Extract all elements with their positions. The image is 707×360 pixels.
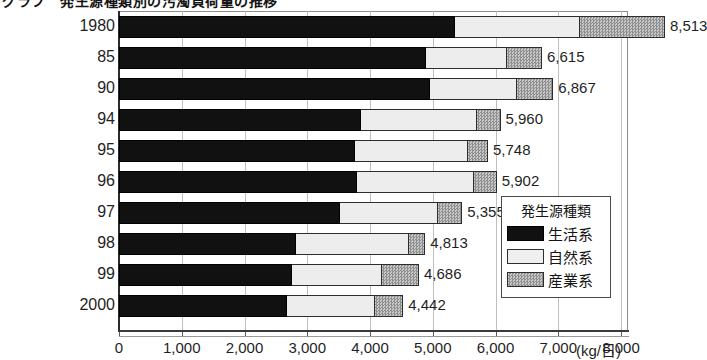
bar-row: 19808,513: [119, 16, 628, 38]
stacked-bar-2000[interactable]: [119, 295, 403, 317]
x-tick-label-5000: 5,000: [414, 339, 452, 356]
chart-title-strip: グラフ 発生源種類別の汚濁負荷量の推移: [0, 0, 648, 9]
bar-segment-sangyo: [375, 295, 403, 317]
bar-segment-sangyo: [409, 233, 425, 255]
legend-item-seikatsu: 生活系: [507, 223, 605, 244]
bar-segment-seikatsu: [119, 171, 357, 193]
bar-segment-shizen: [430, 78, 517, 100]
stacked-bar-85[interactable]: [119, 47, 542, 69]
y-axis-label-97: 97: [0, 203, 115, 221]
bar-segment-shizen: [340, 202, 438, 224]
y-axis-label-98: 98: [0, 234, 115, 252]
x-tick-label-4000: 4,000: [351, 339, 389, 356]
bar-segment-seikatsu: [119, 202, 340, 224]
legend-label-seikatsu: 生活系: [548, 223, 593, 244]
y-axis-label-85: 85: [0, 48, 115, 66]
legend-item-sangyo: 産業系: [507, 269, 605, 290]
bar-value-label: 4,813: [430, 234, 468, 251]
bar-row: 856,615: [119, 47, 628, 69]
bar-segment-shizen: [357, 171, 474, 193]
x-tick-label-6000: 6,000: [477, 339, 515, 356]
stacked-bar-96[interactable]: [119, 171, 497, 193]
bar-segment-shizen: [361, 109, 477, 131]
bar-segment-shizen: [292, 264, 382, 286]
bar-segment-seikatsu: [119, 47, 426, 69]
bar-segment-shizen: [426, 47, 506, 69]
stacked-bar-94[interactable]: [119, 109, 501, 131]
bar-value-label: 6,867: [558, 79, 596, 96]
plot-border-top: [119, 11, 628, 12]
bar-segment-seikatsu: [119, 78, 430, 100]
bar-segment-seikatsu: [119, 109, 361, 131]
stacked-bar-99[interactable]: [119, 264, 419, 286]
x-axis-line: [119, 330, 629, 332]
bar-value-label: 5,748: [493, 141, 531, 158]
bar-segment-shizen: [455, 16, 581, 38]
bar-value-label: 5,960: [506, 110, 544, 127]
bar-row: 965,902: [119, 171, 628, 193]
bar-segment-sangyo: [474, 171, 497, 193]
bar-segment-sangyo: [507, 47, 542, 69]
bar-value-label: 5,902: [502, 172, 540, 189]
x-tick-label-7000: 7,000: [539, 339, 577, 356]
legend-swatch-gray-icon: [507, 272, 544, 287]
x-tick-label-1000: 1,000: [163, 339, 201, 356]
y-axis-label-90: 90: [0, 79, 115, 97]
legend-label-shizen: 自然系: [548, 246, 593, 267]
y-axis-label-96: 96: [0, 172, 115, 190]
bar-value-label: 8,513: [670, 17, 707, 34]
bar-segment-seikatsu: [119, 16, 455, 38]
legend-label-sangyo: 産業系: [548, 269, 593, 290]
bar-segment-seikatsu: [119, 295, 287, 317]
y-axis-label-95: 95: [0, 141, 115, 159]
bar-row: 945,960: [119, 109, 628, 131]
legend-swatch-black-icon: [507, 226, 544, 241]
bar-segment-sangyo: [468, 140, 488, 162]
y-axis-label-99: 99: [0, 265, 115, 283]
stacked-bar-1980[interactable]: [119, 16, 665, 38]
bar-segment-sangyo: [438, 202, 462, 224]
bar-segment-sangyo: [382, 264, 419, 286]
bar-value-label: 4,442: [408, 296, 446, 313]
legend-title: 発生源種類: [507, 200, 605, 220]
legend-swatch-light-icon: [507, 249, 544, 264]
x-tick-label-3000: 3,000: [288, 339, 326, 356]
bar-row: 20004,442: [119, 295, 628, 317]
y-axis-label-2000: 2000: [0, 296, 115, 314]
bar-row: 955,748: [119, 140, 628, 162]
page-title: グラフ 発生源種類別の汚濁負荷量の推移: [2, 0, 278, 9]
bar-segment-shizen: [355, 140, 468, 162]
bar-segment-shizen: [287, 295, 375, 317]
stacked-bar-97[interactable]: [119, 202, 462, 224]
bar-segment-sangyo: [477, 109, 500, 131]
y-axis-label-1980: 1980: [0, 17, 115, 35]
bar-segment-sangyo: [580, 16, 665, 38]
bar-value-label: 6,615: [547, 48, 585, 65]
stacked-bar-95[interactable]: [119, 140, 488, 162]
bar-segment-seikatsu: [119, 264, 292, 286]
bar-segment-seikatsu: [119, 233, 296, 255]
y-axis-label-94: 94: [0, 110, 115, 128]
stacked-bar-90[interactable]: [119, 78, 553, 100]
bar-row: 906,867: [119, 78, 628, 100]
legend-item-shizen: 自然系: [507, 246, 605, 267]
bar-segment-seikatsu: [119, 140, 355, 162]
x-tick-label-0: 0: [115, 339, 123, 356]
bar-segment-shizen: [296, 233, 409, 255]
bar-value-label: 5,355: [467, 203, 505, 220]
bar-segment-sangyo: [517, 78, 553, 100]
bar-value-label: 4,686: [424, 265, 462, 282]
legend: 発生源種類 生活系 自然系 産業系: [501, 196, 611, 298]
x-tick-label-2000: 2,000: [226, 339, 264, 356]
x-axis-line-secondary: [119, 336, 629, 337]
x-axis-unit: (kg/日): [576, 339, 621, 360]
stacked-bar-98[interactable]: [119, 233, 425, 255]
